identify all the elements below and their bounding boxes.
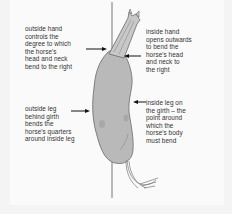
horse-tail (126, 160, 158, 188)
arrow-inside-hand (124, 54, 141, 58)
horse-neck-head (109, 12, 140, 58)
arrow-inside-leg (133, 100, 146, 104)
body-shading (124, 115, 129, 122)
label-inside-leg: inside leg on the girth – the point arou… (146, 99, 228, 145)
label-outside-leg: outside leg behind girth bends the horse… (25, 105, 100, 143)
label-inside-hand: inside hand opens outwards to bend the h… (146, 28, 226, 74)
label-outside-hand: outside hand controls the degree to whic… (25, 25, 95, 71)
